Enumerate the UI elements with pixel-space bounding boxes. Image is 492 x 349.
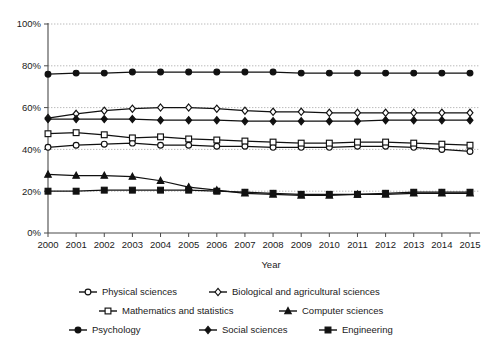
datapoint-engineering-2003 [130, 187, 136, 193]
datapoint-engineering-2004 [158, 187, 164, 193]
x-tick-label: 2005 [178, 239, 199, 250]
legend-item-physical-sciences[interactable]: Physical sciences [79, 286, 177, 297]
series-computer-sciences [45, 171, 473, 198]
datapoint-mathematics-and-statistics-2005 [186, 136, 192, 142]
datapoint-computer-sciences-2004 [157, 177, 163, 183]
series-psychology [45, 69, 473, 77]
legend-marker-computer-sciences [285, 308, 291, 314]
datapoint-mathematics-and-statistics-2015 [467, 142, 473, 148]
x-tick-label: 2000 [37, 239, 58, 250]
datapoint-psychology-2006 [214, 69, 220, 75]
axes-group: 0%20%40%60%80%100%2000200120022003200420… [17, 18, 481, 250]
datapoint-social-sciences-2015 [467, 117, 473, 124]
legend-label-psychology: Psychology [92, 324, 141, 335]
datapoint-social-sciences-2003 [129, 115, 135, 122]
datapoint-engineering-2002 [101, 187, 107, 193]
datapoint-biological-and-agricultural-sciences-2010 [326, 109, 332, 116]
datapoint-social-sciences-2012 [383, 117, 389, 124]
datapoint-psychology-2008 [270, 69, 276, 75]
legend-label-physical-sciences: Physical sciences [102, 286, 177, 297]
datapoint-engineering-2008 [270, 190, 276, 196]
x-axis-title: Year [261, 259, 280, 270]
datapoint-engineering-2012 [383, 190, 389, 196]
x-tick-label: 2015 [459, 239, 480, 250]
legend-marker-physical-sciences [85, 289, 91, 295]
datapoint-mathematics-and-statistics-2010 [326, 140, 332, 146]
x-tick-label: 2009 [291, 239, 312, 250]
datapoint-computer-sciences-2001 [73, 172, 79, 178]
datapoint-engineering-2014 [439, 189, 445, 195]
y-tick-label: 20% [22, 186, 42, 197]
legend-label-computer-sciences: Computer sciences [302, 305, 384, 316]
chart-canvas: 0%20%40%60%80%100%2000200120022003200420… [0, 0, 492, 349]
legend-marker-psychology [75, 327, 81, 333]
x-tick-label: 2011 [347, 239, 367, 250]
legend-marker-social-sciences [205, 326, 211, 333]
datapoint-physical-sciences-2005 [186, 142, 192, 148]
x-tick-label: 2002 [94, 239, 115, 250]
datapoint-social-sciences-2006 [214, 117, 220, 124]
datapoint-psychology-2002 [101, 70, 107, 76]
legend-item-mathematics-and-statistics[interactable]: Mathematics and statistics [99, 305, 234, 316]
datapoint-engineering-2005 [186, 187, 192, 193]
x-tick-label: 2003 [122, 239, 143, 250]
datapoint-physical-sciences-2004 [158, 142, 164, 148]
line-chart: 0%20%40%60%80%100%2000200120022003200420… [0, 0, 492, 349]
datapoint-engineering-2000 [45, 188, 51, 194]
datapoint-social-sciences-2001 [73, 115, 79, 122]
datapoint-social-sciences-2004 [158, 117, 164, 124]
datapoint-computer-sciences-2000 [45, 171, 51, 177]
legend-item-social-sciences[interactable]: Social sciences [199, 324, 288, 335]
legend-label-social-sciences: Social sciences [222, 324, 288, 335]
datapoint-biological-and-agricultural-sciences-2014 [439, 109, 445, 116]
datapoint-mathematics-and-statistics-2000 [45, 131, 51, 137]
legend-marker-biological-and-agricultural-sciences [215, 288, 221, 295]
y-tick-label: 60% [22, 102, 42, 113]
datapoint-engineering-2011 [355, 191, 361, 197]
datapoint-mathematics-and-statistics-2002 [101, 132, 107, 138]
series-mathematics-and-statistics [45, 130, 473, 148]
datapoint-biological-and-agricultural-sciences-2008 [270, 108, 276, 115]
datapoint-engineering-2015 [467, 189, 473, 195]
datapoint-biological-and-agricultural-sciences-2002 [101, 107, 107, 114]
datapoint-biological-and-agricultural-sciences-2012 [383, 109, 389, 116]
legend-label-engineering: Engineering [342, 324, 393, 335]
x-tick-label: 2008 [262, 239, 283, 250]
series-line-biological-and-agricultural-sciences [48, 108, 470, 118]
datapoint-social-sciences-2011 [355, 118, 361, 125]
datapoint-social-sciences-2009 [298, 118, 304, 125]
datapoint-biological-and-agricultural-sciences-2007 [242, 107, 248, 114]
datapoint-engineering-2001 [73, 188, 79, 194]
datapoint-psychology-2010 [326, 70, 332, 76]
datapoint-social-sciences-2008 [270, 118, 276, 125]
datapoint-psychology-2003 [130, 69, 136, 75]
legend: Physical sciencesBiological and agricult… [69, 286, 393, 335]
datapoint-psychology-2012 [383, 70, 389, 76]
series-social-sciences [45, 115, 473, 124]
legend-item-computer-sciences[interactable]: Computer sciences [279, 305, 384, 316]
datapoint-psychology-2014 [439, 70, 445, 76]
legend-item-biological-and-agricultural-sciences[interactable]: Biological and agricultural sciences [209, 286, 380, 297]
datapoint-psychology-2013 [411, 70, 417, 76]
datapoint-mathematics-and-statistics-2014 [439, 141, 445, 147]
datapoint-engineering-2010 [326, 191, 332, 197]
series-line-social-sciences [48, 119, 470, 121]
datapoint-biological-and-agricultural-sciences-2013 [411, 109, 417, 116]
datapoint-mathematics-and-statistics-2008 [270, 139, 276, 145]
datapoint-mathematics-and-statistics-2012 [383, 139, 389, 145]
datapoint-psychology-2011 [355, 70, 361, 76]
y-tick-label: 0% [27, 227, 41, 238]
legend-item-psychology[interactable]: Psychology [69, 324, 141, 335]
datapoint-engineering-2006 [214, 188, 220, 194]
datapoint-social-sciences-2005 [186, 117, 192, 124]
legend-marker-mathematics-and-statistics [105, 308, 111, 314]
datapoint-social-sciences-2014 [439, 117, 445, 124]
datapoint-social-sciences-2010 [326, 118, 332, 125]
legend-item-engineering[interactable]: Engineering [319, 324, 393, 335]
series-line-psychology [48, 72, 470, 74]
legend-label-biological-and-agricultural-sciences: Biological and agricultural sciences [232, 286, 380, 297]
y-tick-label: 80% [22, 60, 42, 71]
y-tick-label: 100% [17, 18, 42, 29]
x-tick-label: 2013 [403, 239, 424, 250]
gridlines-group [48, 24, 480, 191]
